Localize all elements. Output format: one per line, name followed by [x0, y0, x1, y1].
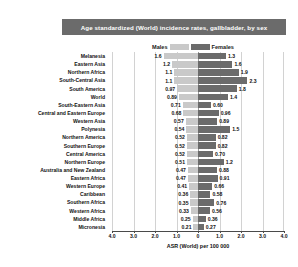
bar-male — [177, 85, 198, 92]
table-row: 0.541.5 — [112, 125, 284, 133]
bar-value-female: 1.5 — [232, 126, 239, 132]
category-label: Western Europe — [0, 182, 108, 190]
plot-area: 1.61.31.21.61.11.91.12.30.971.80.891.40.… — [112, 52, 284, 231]
bar-value-male: 0.41 — [174, 183, 187, 189]
bar-female — [198, 77, 247, 84]
bar-value-male: 0.47 — [173, 167, 186, 173]
legend-label-males: Males — [152, 44, 168, 50]
x-axis-ticks: 4.03.02.01.001.02.03.04.0 — [112, 233, 284, 242]
category-label: Eastern Africa — [0, 174, 108, 182]
bar-male — [187, 134, 198, 141]
bar-female — [198, 102, 211, 109]
bar-female — [198, 175, 218, 182]
bar-male — [174, 77, 198, 84]
bar-male — [187, 151, 198, 158]
bar-value-female: 0.70 — [215, 151, 225, 157]
table-row: 0.410.66 — [112, 182, 284, 190]
table-row: 0.520.82 — [112, 142, 284, 150]
bar-female — [198, 110, 219, 117]
x-tick-label: 4.0 — [280, 233, 287, 239]
chart-legend: Males Females — [152, 42, 234, 51]
bar-value-male: 0.57 — [171, 118, 184, 124]
bar-female — [198, 142, 216, 149]
category-axis-labels: MelanesiaEastern AsiaNorthern AfricaSout… — [0, 52, 108, 231]
bar-value-female: 0.66 — [214, 183, 224, 189]
bar-value-male: 0.47 — [173, 175, 186, 181]
bar-rows: 1.61.31.21.61.11.91.12.30.971.80.891.40.… — [112, 52, 284, 231]
table-row: 0.360.58 — [112, 190, 284, 198]
bar-value-female: 1.3 — [228, 53, 235, 59]
category-label: World — [0, 93, 108, 101]
table-row: 0.710.60 — [112, 101, 284, 109]
table-row: 0.520.70 — [112, 150, 284, 158]
bar-value-male: 0.52 — [172, 151, 185, 157]
bar-value-female: 0.36 — [208, 216, 218, 222]
bar-value-female: 1.9 — [241, 69, 248, 75]
category-label: Australia and New Zealand — [0, 166, 108, 174]
bar-female — [198, 134, 216, 141]
bar-male — [172, 61, 198, 68]
bar-value-female: 0.82 — [218, 143, 228, 149]
legend-label-females: Females — [212, 44, 234, 50]
x-tick-label: 1.0 — [216, 233, 223, 239]
bar-value-female: 0.96 — [221, 110, 231, 116]
bar-female — [198, 61, 232, 68]
category-label: Caribbean — [0, 190, 108, 198]
bar-value-male: 1.2 — [157, 61, 170, 67]
category-label: South-Central Asia — [0, 76, 108, 84]
x-tick-label: 2.0 — [151, 233, 158, 239]
bar-male — [183, 102, 198, 109]
category-label: Central America — [0, 150, 108, 158]
bar-male — [183, 110, 198, 117]
bar-value-female: 0.76 — [216, 200, 226, 206]
table-row: 1.61.3 — [112, 52, 284, 60]
bar-female — [198, 191, 210, 198]
category-label: Melanesia — [0, 52, 108, 60]
chart-title-banner: Age standardized (World) incidence rates… — [62, 19, 286, 35]
table-row: 1.11.9 — [112, 68, 284, 76]
bar-female — [198, 126, 230, 133]
table-row: 0.470.91 — [112, 174, 284, 182]
bar-female — [198, 199, 214, 206]
category-label: Northern America — [0, 133, 108, 141]
category-label: Southern Europe — [0, 142, 108, 150]
table-row: 0.511.2 — [112, 158, 284, 166]
table-row: 0.570.89 — [112, 117, 284, 125]
bar-female — [198, 159, 224, 166]
bar-value-female: 1.4 — [230, 94, 237, 100]
bar-value-male: 0.54 — [171, 126, 184, 132]
bar-value-female: 0.91 — [220, 175, 230, 181]
bar-male — [187, 142, 198, 149]
bar-value-male: 0.97 — [162, 86, 175, 92]
bar-male — [188, 167, 198, 174]
bar-male — [164, 53, 198, 60]
chart-page: Age standardized (World) incidence rates… — [0, 0, 298, 267]
bar-value-male: 0.52 — [172, 143, 185, 149]
table-row: 1.12.3 — [112, 76, 284, 84]
bar-value-male: 0.52 — [172, 134, 185, 140]
category-label: Northern Europe — [0, 158, 108, 166]
category-label: Micronesia — [0, 223, 108, 231]
table-row: 1.21.6 — [112, 60, 284, 68]
bar-male — [190, 191, 198, 198]
table-row: 0.680.96 — [112, 109, 284, 117]
category-label: South-Eastern Asia — [0, 101, 108, 109]
table-row: 0.210.27 — [112, 223, 284, 231]
bar-male — [189, 183, 198, 190]
bar-value-male: 1.1 — [159, 69, 172, 75]
bar-female — [198, 224, 204, 231]
bar-value-male: 0.68 — [168, 110, 181, 116]
bar-value-male: 0.36 — [175, 191, 188, 197]
category-label: Polynesia — [0, 125, 108, 133]
bar-value-female: 0.27 — [206, 224, 216, 230]
bar-female — [198, 167, 217, 174]
category-label: Middle Africa — [0, 215, 108, 223]
bar-value-female: 0.60 — [213, 102, 223, 108]
bar-female — [198, 207, 210, 214]
bar-value-female: 2.3 — [249, 78, 256, 84]
bar-value-female: 0.56 — [212, 208, 222, 214]
bar-male — [174, 69, 198, 76]
bar-value-male: 0.51 — [172, 159, 185, 165]
table-row: 0.891.4 — [112, 93, 284, 101]
bar-female — [198, 118, 217, 125]
